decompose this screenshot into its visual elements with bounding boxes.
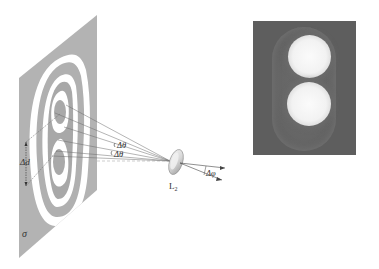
bright-spot-top	[288, 35, 331, 78]
observed-pattern-photo	[253, 21, 356, 155]
bright-spot-bottom	[287, 82, 331, 126]
output-angle-label: Δφ	[205, 168, 216, 178]
output-rays	[180, 163, 225, 181]
lens	[166, 148, 186, 177]
lens-label: L2	[169, 181, 178, 192]
angle-label-2: Δθ	[113, 149, 123, 159]
separation-label: Δd	[19, 157, 30, 167]
screen-plane	[19, 15, 97, 258]
